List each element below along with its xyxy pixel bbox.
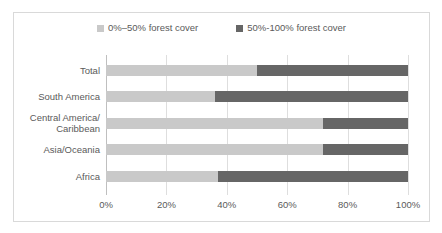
chart-legend: 0%–50% forest cover 50%-100% forest cove… [14,23,429,33]
gridline-100 [408,55,409,195]
bar-segment[interactable] [106,118,323,129]
category-label: Africa [14,171,100,182]
bar-segment[interactable] [218,171,408,182]
bar-row[interactable] [106,91,408,102]
bar-row[interactable] [106,118,408,129]
bar-segment[interactable] [323,144,408,155]
bar-segment[interactable] [215,91,408,102]
category-axis: TotalSouth AmericaCentral America/Caribb… [14,55,106,195]
tick-label-0: 0% [99,199,113,211]
bar-row[interactable] [106,144,408,155]
tick-label-80: 80% [338,199,357,211]
category-label-line: Africa [14,171,100,182]
category-label-line: Total [14,65,100,76]
category-label: Asia/Oceania [14,144,100,155]
bar-row[interactable] [106,171,408,182]
category-label: Central America/Caribbean [14,112,100,134]
legend-label-50-100: 50%-100% forest cover [247,23,346,33]
plot-area [106,55,408,195]
bar-segment[interactable] [323,118,408,129]
tick-label-20: 20% [157,199,176,211]
category-label: Total [14,65,100,76]
category-label-line: Caribbean [14,123,100,134]
bar-segment[interactable] [106,65,257,76]
tick-label-100: 100% [396,199,420,211]
category-label: South America [14,91,100,102]
chart-container: 0%–50% forest cover 50%-100% forest cove… [13,12,430,222]
legend-entry-50-100[interactable]: 50%-100% forest cover [236,23,346,33]
category-label-line: South America [14,91,100,102]
bar-row[interactable] [106,65,408,76]
legend-label-0-50: 0%–50% forest cover [108,23,198,33]
category-label-line: Asia/Oceania [14,144,100,155]
category-label-line: Central America/ [14,112,100,123]
value-axis-ticks: 0%20%40%60%80%100% [106,199,408,213]
legend-swatch-light-icon [97,25,104,32]
bar-segment[interactable] [106,91,215,102]
bar-segment[interactable] [257,65,408,76]
tick-label-40: 40% [217,199,236,211]
bar-segment[interactable] [106,144,323,155]
bar-segment[interactable] [106,171,218,182]
tick-label-60: 60% [278,199,297,211]
legend-swatch-dark-icon [236,25,243,32]
bar-series-group [106,55,408,195]
legend-entry-0-50[interactable]: 0%–50% forest cover [97,23,198,33]
